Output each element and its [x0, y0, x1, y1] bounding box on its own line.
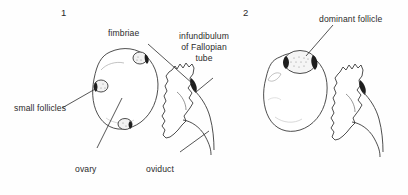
label-small-follicles: small follicles: [14, 103, 66, 114]
label-infundibulum-line1: infundibulum: [168, 31, 240, 42]
label-dominant-follicle: dominant follicle: [319, 14, 382, 25]
label-fimbriae: fimbriae: [108, 28, 139, 39]
panel-1-oviduct: [162, 63, 214, 155]
label-ovary: ovary: [75, 164, 97, 175]
small-follicle-top: [133, 52, 149, 64]
small-follicle-left: [94, 80, 108, 92]
label-infundibulum-line2: of Fallopian: [168, 42, 240, 53]
panel-2-oviduct: [331, 64, 383, 157]
panel-number-1: 1: [61, 7, 66, 18]
anatomical-figure: 1 2 fimbriae infundibulum of Fallopian t…: [0, 0, 408, 195]
label-oviduct: oviduct: [146, 164, 174, 175]
panel-2-leader-lines: [306, 25, 333, 56]
small-follicle-bottom: [118, 119, 132, 130]
anatomy-drawing: [0, 0, 408, 195]
panel-number-2: 2: [243, 7, 248, 18]
label-infundibulum-line3: tube: [168, 53, 240, 64]
